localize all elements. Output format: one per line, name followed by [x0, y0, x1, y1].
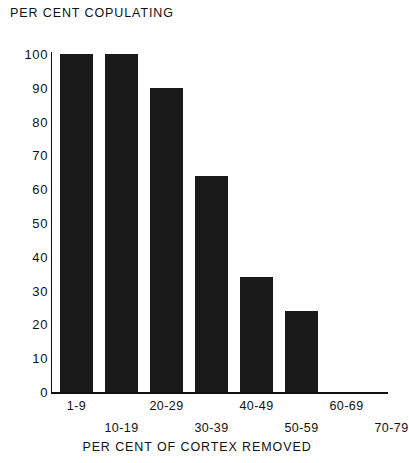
x-axis-title: PER CENT OF CORTEX REMOVED [0, 440, 394, 454]
x-tick-label: 20-29 [150, 399, 184, 413]
x-tick-label: 70-79 [375, 421, 409, 435]
x-tick-label: 40-49 [240, 399, 274, 413]
x-tick-label: 50-59 [285, 421, 319, 435]
bar [105, 54, 138, 392]
bar [285, 311, 318, 392]
x-tick-label: 30-39 [195, 421, 229, 435]
bar [150, 88, 183, 392]
x-axis-tick-labels: 1-910-1920-2930-3940-4950-5960-6970-79 [0, 392, 394, 442]
bar-series [0, 0, 394, 392]
bar [60, 54, 93, 392]
bar [240, 277, 273, 392]
bar [195, 176, 228, 392]
x-tick-label: 1-9 [67, 399, 86, 413]
x-tick-label: 10-19 [105, 421, 139, 435]
x-tick-label: 60-69 [330, 399, 364, 413]
